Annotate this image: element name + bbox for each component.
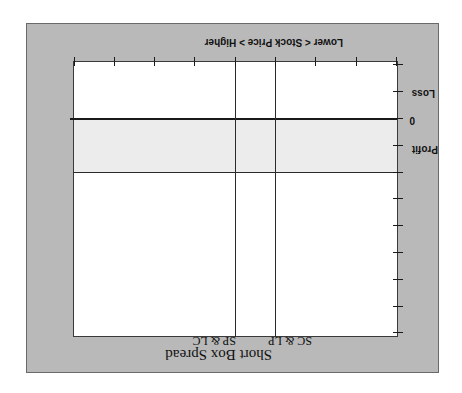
y-tick [393,64,403,65]
x-tick [315,57,316,66]
y-tick [393,332,403,333]
x-tick [275,57,276,66]
chart-title: Short Box Spread [165,346,272,363]
y-tick [393,118,403,119]
y-tick [393,145,403,146]
y-tick [393,279,403,280]
chart-stage: Short Box Spread SC & LP SP & LC Profit … [0,0,462,393]
y-label-profit: Profit [412,144,438,155]
y-tick [393,306,403,307]
y-tick [393,198,403,199]
y-tick [393,225,403,226]
x-tick [356,57,357,66]
y-tick [393,172,403,173]
y-label-zero: 0 [409,115,415,126]
marker-line-sc-lp [275,61,276,337]
x-tick [396,57,397,66]
y-tick [393,252,403,253]
x-tick [114,57,115,66]
x-tick [194,57,195,66]
x-tick [235,57,236,66]
x-axis-label: Lower < Stock Price > Higher [205,37,343,48]
x-tick [74,57,75,66]
zero-line [70,118,397,120]
x-tick [154,57,155,66]
y-label-loss: Loss [412,88,435,99]
y-tick [393,91,403,92]
marker-line-sp-lc [235,61,236,337]
